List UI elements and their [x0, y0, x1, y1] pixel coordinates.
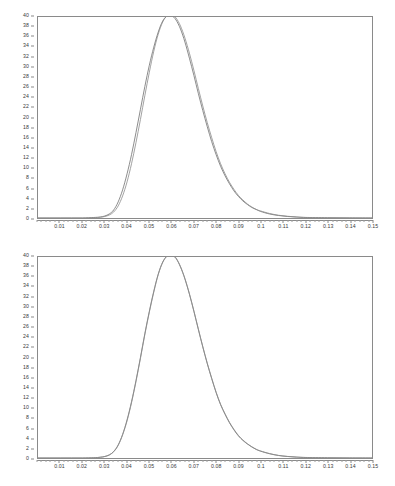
x-minor-tick-mark [144, 460, 145, 462]
x-minor-tick-mark [274, 220, 275, 222]
x-minor-tick-mark [234, 220, 235, 222]
x-tick-label: 0.09 [233, 464, 244, 469]
y-tick-mark [31, 97, 34, 98]
y-tick-label: 36 [23, 34, 29, 39]
y-tick-mark [31, 158, 34, 159]
x-minor-tick-mark [252, 460, 253, 462]
y-tick-label: 8 [26, 416, 29, 421]
x-minor-tick-mark [131, 220, 132, 222]
x-minor-tick-mark [323, 460, 324, 462]
x-tick-label: 0.05 [144, 464, 155, 469]
y-tick-mark [31, 428, 34, 429]
y-tick-label: 20 [23, 115, 29, 120]
x-minor-tick-mark [341, 460, 342, 462]
x-minor-tick-mark [220, 220, 221, 222]
x-minor-tick-mark [175, 220, 176, 222]
x-minor-tick-mark [153, 220, 154, 222]
x-minor-tick-mark [265, 220, 266, 222]
series-line-fitted [38, 257, 372, 458]
x-tick-label: 0.02 [77, 224, 88, 229]
plot-curves-bottom [38, 257, 372, 458]
series-line-empirical [38, 17, 372, 218]
y-tick-mark [31, 66, 34, 67]
x-minor-tick-mark [211, 220, 212, 222]
x-minor-tick-mark [359, 460, 360, 462]
x-minor-tick-mark [153, 460, 154, 462]
x-minor-tick-mark [323, 220, 324, 222]
x-tick-label: 0.14 [345, 464, 356, 469]
y-tick-label: 14 [23, 385, 29, 390]
x-minor-tick-mark [99, 460, 100, 462]
x-minor-tick-mark [355, 220, 356, 222]
y-tick-label: 38 [23, 24, 29, 29]
y-tick-label: 40 [23, 253, 29, 258]
x-tick-label: 0.05 [144, 224, 155, 229]
x-minor-tick-mark [256, 460, 257, 462]
x-minor-tick-mark [287, 220, 288, 222]
x-tick-label: 0.08 [211, 224, 222, 229]
y-tick-label: 18 [23, 125, 29, 130]
y-tick-label: 28 [23, 74, 29, 79]
y-tick-mark [31, 387, 34, 388]
x-tick-label: 0.13 [323, 224, 334, 229]
x-tick-label: 0.12 [301, 464, 312, 469]
y-tick-mark [31, 178, 34, 179]
x-minor-tick-mark [274, 460, 275, 462]
x-minor-tick-mark [296, 460, 297, 462]
x-minor-tick-mark [131, 460, 132, 462]
x-minor-tick-mark [225, 460, 226, 462]
y-tick-label: 2 [26, 446, 29, 451]
x-minor-tick-mark [41, 460, 42, 462]
y-tick-mark [31, 459, 34, 460]
x-minor-tick-mark [256, 220, 257, 222]
x-minor-tick-mark [180, 220, 181, 222]
x-minor-tick-mark [265, 460, 266, 462]
x-minor-tick-mark [252, 220, 253, 222]
x-minor-tick-mark [234, 460, 235, 462]
y-tick-label: 10 [23, 166, 29, 171]
y-tick-label: 32 [23, 294, 29, 299]
chart-bottom: 0246810121416182022242628303234363840 0.… [0, 243, 395, 486]
x-minor-tick-mark [113, 460, 114, 462]
x-minor-tick-mark [202, 460, 203, 462]
x-minor-tick-mark [269, 220, 270, 222]
x-minor-tick-mark [63, 460, 64, 462]
y-tick-mark [31, 418, 34, 419]
y-tick-label: 36 [23, 274, 29, 279]
x-minor-tick-mark [162, 460, 163, 462]
y-tick-label: 22 [23, 105, 29, 110]
x-minor-tick-mark [37, 220, 38, 222]
y-tick-label: 4 [26, 196, 29, 201]
y-tick-mark [31, 398, 34, 399]
x-minor-tick-mark [189, 220, 190, 222]
x-minor-tick-mark [166, 460, 167, 462]
y-tick-mark [31, 408, 34, 409]
x-minor-tick-mark [108, 220, 109, 222]
x-minor-tick-mark [243, 460, 244, 462]
x-minor-tick-mark [355, 460, 356, 462]
y-tick-label: 12 [23, 395, 29, 400]
chart-top: 0246810121416182022242628303234363840 0.… [0, 0, 395, 243]
x-minor-tick-mark [68, 220, 69, 222]
y-tick-label: 28 [23, 314, 29, 319]
y-tick-label: 6 [26, 186, 29, 191]
y-tick-mark [31, 219, 34, 220]
x-tick-label: 0.1 [257, 224, 265, 229]
x-minor-tick-mark [122, 460, 123, 462]
series-line-empirical [38, 257, 372, 458]
x-tick-label: 0.15 [368, 224, 379, 229]
x-minor-tick-mark [314, 460, 315, 462]
y-tick-mark [31, 208, 34, 209]
x-minor-tick-mark [122, 220, 123, 222]
x-minor-tick-mark [247, 460, 248, 462]
y-tick-mark [31, 337, 34, 338]
y-tick-mark [31, 276, 34, 277]
x-tick-label: 0.11 [278, 464, 288, 469]
x-minor-tick-mark [314, 220, 315, 222]
x-axis-top: 0.010.020.030.040.050.060.070.080.090.10… [37, 220, 373, 236]
y-tick-label: 2 [26, 206, 29, 211]
y-tick-label: 16 [23, 135, 29, 140]
x-tick-label: 0.01 [54, 464, 65, 469]
y-tick-mark [31, 377, 34, 378]
x-minor-tick-mark [301, 460, 302, 462]
